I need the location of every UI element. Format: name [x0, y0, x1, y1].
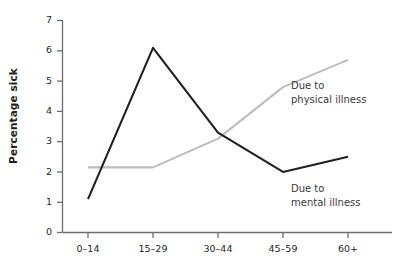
annotation-mental-illness-line2: mental illness — [291, 196, 360, 210]
series-line-physical-illness — [88, 60, 348, 167]
y-tick-label-0: 0 — [38, 226, 52, 237]
annotation-mental-illness: Due to mental illness — [291, 182, 360, 209]
y-tick-label-6: 6 — [38, 44, 52, 55]
x-axis-ticks — [88, 233, 348, 239]
y-tick-label-2: 2 — [38, 166, 52, 177]
annotation-physical-illness-line2: physical illness — [291, 93, 366, 107]
y-tick-label-1: 1 — [38, 196, 52, 207]
x-tick-label-0-14: 0–14 — [58, 243, 118, 254]
chart-plot-area — [0, 0, 394, 276]
y-tick-label-5: 5 — [38, 75, 52, 86]
line-chart: Percentage sick 7 6 5 4 3 2 1 0 0–14 15–… — [0, 0, 394, 276]
y-tick-label-4: 4 — [38, 105, 52, 116]
annotation-physical-illness-line1: Due to — [291, 79, 366, 93]
annotation-mental-illness-line1: Due to — [291, 182, 360, 196]
x-tick-label-45-59: 45–59 — [253, 243, 313, 254]
x-tick-label-15-29: 15–29 — [123, 243, 183, 254]
y-tick-label-3: 3 — [38, 135, 52, 146]
series-line-mental-illness — [88, 48, 348, 199]
x-tick-label-60-plus: 60+ — [318, 243, 378, 254]
x-tick-label-30-44: 30–44 — [188, 243, 248, 254]
y-tick-label-7: 7 — [38, 14, 52, 25]
y-axis-ticks — [57, 21, 63, 233]
annotation-physical-illness: Due to physical illness — [291, 79, 366, 106]
